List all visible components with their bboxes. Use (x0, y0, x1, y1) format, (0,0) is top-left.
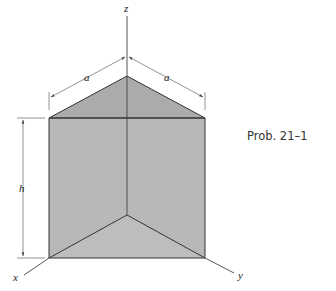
problem-caption: Prob. 21–1 (247, 129, 308, 143)
z-axis-label: z (123, 2, 129, 14)
x-axis (24, 258, 49, 275)
y-axis (205, 258, 234, 273)
x-axis-label: x (12, 271, 18, 283)
dim-h-label: h (19, 182, 25, 194)
y-axis-label: y (237, 269, 243, 281)
dim-a-left-label: a (84, 71, 90, 83)
prism-diagram: z x y a a h (0, 0, 336, 291)
dim-a-right-label: a (164, 71, 170, 83)
